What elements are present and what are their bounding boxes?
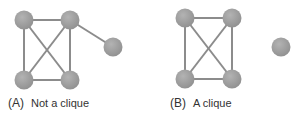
graph-node — [15, 11, 34, 30]
graph-node — [176, 70, 195, 89]
graph-node — [15, 71, 34, 90]
panel-letter-b: (B) — [170, 96, 186, 110]
graph-node — [176, 9, 195, 28]
edges-layer — [24, 18, 232, 80]
caption-panel-b: (B)A clique — [170, 96, 232, 110]
graph-node — [272, 38, 291, 57]
graph-node — [104, 38, 123, 57]
graph-node — [61, 11, 80, 30]
caption-panel-a: (A)Not a clique — [8, 96, 89, 110]
panel-letter-a: (A) — [8, 96, 24, 110]
panel-caption-b: A clique — [193, 97, 232, 109]
graph-node — [61, 71, 80, 90]
panel-caption-a: Not a clique — [31, 97, 89, 109]
graph-node — [223, 9, 242, 28]
graph-node — [223, 70, 242, 89]
